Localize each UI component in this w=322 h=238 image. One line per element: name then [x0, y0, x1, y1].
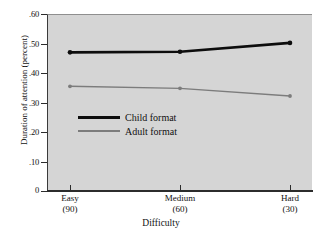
- legend-swatch-child-icon: [78, 116, 122, 119]
- legend-label-child-format: Child format: [122, 112, 176, 123]
- data-point-child-format-medium: [178, 49, 183, 54]
- data-point-adult-format-hard: [288, 94, 292, 98]
- data-point-child-format-easy: [68, 50, 73, 55]
- legend-item-adult-format: Adult format: [78, 124, 208, 138]
- data-point-child-format-hard: [288, 41, 293, 46]
- chart-figure: .60 .50 .40 .30 .20 .10 0 Easy (90) Medi…: [0, 0, 322, 238]
- legend-swatch-adult-icon: [78, 130, 122, 132]
- data-point-adult-format-medium: [178, 86, 182, 90]
- legend-item-child-format: Child format: [78, 110, 208, 124]
- chart-legend: Child format Adult format: [78, 110, 208, 138]
- legend-label-adult-format: Adult format: [122, 126, 177, 137]
- data-point-adult-format-easy: [68, 84, 72, 88]
